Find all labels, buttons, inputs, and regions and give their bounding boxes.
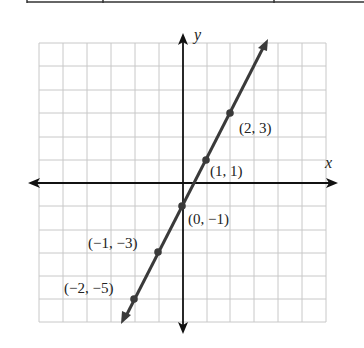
point-0-neg1 [178,202,186,210]
coordinate-plane: x y (2, 3) (1, 1) (0, −1) (−1, −3) (−2, … [0,0,364,348]
table-border-remnant [27,0,364,3]
label-point-0-neg1: (0, −1) [188,211,229,228]
x-axis-label: x [324,154,332,171]
label-point-2-3: (2, 3) [239,120,272,137]
line-upper-arrow-icon [258,39,268,51]
label-point-neg1-neg3: (−1, −3) [88,235,137,252]
point-neg1-neg3 [154,248,162,256]
y-axis-label: y [192,26,202,44]
label-point-1-1: (1, 1) [210,163,243,180]
point-neg2-neg5 [130,295,138,303]
point-1-1 [202,156,210,164]
label-point-neg2-neg5: (−2, −5) [64,280,113,297]
point-2-3 [226,109,234,117]
plotted-line [121,39,268,324]
